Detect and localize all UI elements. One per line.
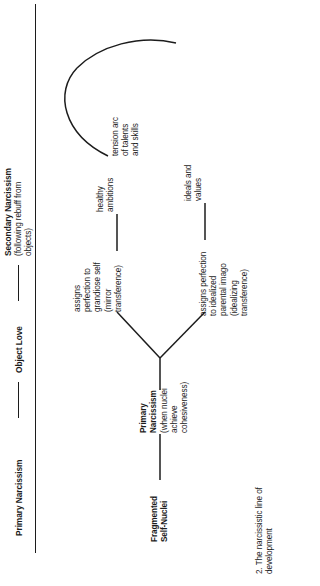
figure-canvas: Primary Narcissism Object Love Secondary… xyxy=(0,0,320,586)
figure-rotator: Primary Narcissism Object Love Secondary… xyxy=(0,0,320,586)
edge-fork-lower xyxy=(160,312,205,358)
node-healthy-ambitions: healthy ambitions xyxy=(96,156,116,212)
tension-arc-lower-half xyxy=(77,40,176,68)
edge-fork-upper xyxy=(117,312,160,358)
node-ideals-and-values: ideals and values xyxy=(184,145,204,201)
node-fragmented-self-nuclei: Fragmented Self-Nuclei xyxy=(150,478,170,542)
node-upper-branch-label: assigns perfection to grandiose self (mi… xyxy=(73,242,124,312)
node-primary-narcissism-note: (when nuclei achieve cohesiveness) xyxy=(160,373,191,433)
node-tension-arc-label: tension arc of talents and skills xyxy=(111,96,142,156)
node-primary-narcissism: Primary Narcissism xyxy=(139,387,159,433)
node-lower-branch-label: assigns perfection to idealized parental… xyxy=(199,228,250,316)
tension-arc-upper-half xyxy=(65,68,108,156)
